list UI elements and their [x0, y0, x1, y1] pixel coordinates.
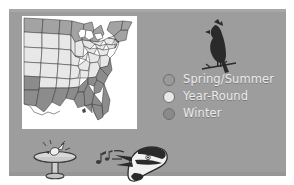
legend-item-winter[interactable]: Winter — [156, 105, 284, 122]
range-map[interactable] — [22, 16, 137, 129]
birdbath-icon — [31, 137, 79, 181]
legend-swatch-spring-summer — [163, 74, 175, 86]
legend-item-spring-summer[interactable]: Spring/Summer — [156, 71, 284, 88]
legend-swatch-winter — [163, 108, 175, 120]
infographic-root: Spring/Summer Year-Round Winter — [0, 0, 294, 185]
range-legend: Spring/Summer Year-Round Winter — [156, 71, 284, 122]
singing-bird-head-icon — [112, 139, 170, 184]
legend-label-year-round: Year-Round — [183, 91, 248, 103]
panel-highlight-top — [9, 9, 286, 12]
info-panel: Spring/Summer Year-Round Winter — [9, 9, 286, 176]
legend-label-spring-summer: Spring/Summer — [183, 74, 274, 86]
legend-item-year-round[interactable]: Year-Round — [156, 88, 284, 105]
perched-bird-silhouette-icon — [196, 19, 240, 75]
music-notes-icon — [95, 149, 113, 167]
legend-swatch-year-round — [163, 91, 175, 103]
legend-label-winter: Winter — [183, 108, 222, 120]
